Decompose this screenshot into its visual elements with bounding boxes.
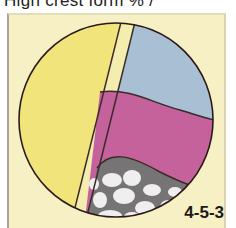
circle-diagram: [0, 0, 236, 228]
figure-label: 4-5-3: [184, 203, 224, 223]
